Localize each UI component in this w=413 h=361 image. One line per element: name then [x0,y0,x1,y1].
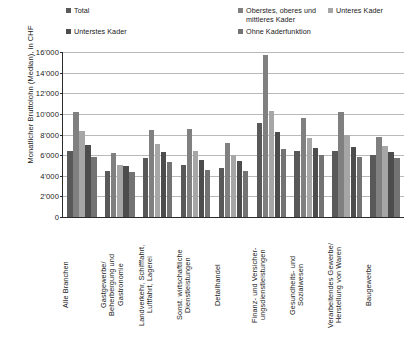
bar [111,153,116,217]
bar [344,135,349,218]
bar [388,152,393,217]
chart-legend: Total Oberstes, oberes und mittleres Kad… [66,6,410,46]
bar [237,161,242,217]
y-axis-tick-mark [60,217,63,218]
bar [199,160,204,217]
bar [231,155,236,217]
bar [91,157,96,217]
bar-group [218,52,248,217]
y-axis-tick-label: 12'000 [36,89,59,98]
bar [382,146,387,217]
bar [332,151,337,217]
bar-group [143,52,173,217]
bar-group [332,52,362,217]
y-axis-tick-label: 16'000 [36,48,59,57]
bar [294,151,299,217]
bar-group [67,52,97,217]
y-axis-tick-label: 2'000 [40,192,59,201]
legend-swatch-unterstes-kader [66,29,71,34]
legend-swatch-unteres-kader [328,8,333,13]
bar [281,149,286,217]
bar [181,165,186,217]
bar [370,155,375,217]
y-axis-tick-label: 6'000 [40,151,59,160]
bar [263,55,268,217]
bar [167,162,172,217]
y-axis-tick-label: 4'000 [40,171,59,180]
bar-group [370,52,400,217]
plot-area: 02'0004'0006'0008'00010'00012'00014'0001… [62,52,404,218]
x-axis-category-label: Gesundheits- und Sozialwesen [289,220,327,350]
bar [79,131,84,217]
bar [105,171,110,217]
legend-label-unterstes-kader: Unterstes Kader [74,27,127,36]
bar-chart: Total Oberstes, oberes und mittleres Kad… [0,0,413,361]
y-axis-title: Monatlicher Bruttolohn (Median), in CHF [26,5,35,185]
bar [67,151,72,217]
x-axis-category-label: Verarbeitendes Gewerbe/ Herstellung von … [327,220,365,350]
bar [205,170,210,217]
bar [187,129,192,217]
bar [319,155,324,217]
bar [313,148,318,217]
legend-label-unteres-kader: Unteres Kader [336,6,383,15]
bar-group [256,52,286,217]
legend-item-unteres-kader: Unteres Kader [328,6,393,15]
bar [243,171,248,217]
bar-group [105,52,135,217]
bar [257,123,262,217]
bar [357,157,362,217]
bar [73,112,78,217]
bar [117,165,122,217]
y-axis-tick-label: 10'000 [36,109,59,118]
x-axis-category-label: Gastgewerbe/ Beherbergung und Gastronomi… [100,220,138,350]
bar [193,151,198,217]
y-axis-tick-label: 8'000 [40,130,59,139]
bar [155,144,160,217]
bar [143,158,148,217]
bar-group [294,52,324,217]
x-axis-category-label: Alle Branchen [62,220,100,350]
x-axis-labels: Alle BranchenGastgewerbe/ Beherbergung u… [62,220,403,352]
bar [376,137,381,217]
bar [149,130,154,217]
bar [225,143,230,217]
bar [129,172,134,217]
x-axis-category-label: Finanz- und Versicher- ungsdienstleistun… [251,220,289,350]
bar [269,111,274,217]
legend-label-oberstes-kader: Oberstes, oberes und mittleres Kader [246,6,316,24]
bar [338,112,343,217]
bar-group [180,52,210,217]
legend-item-oberstes-kader: Oberstes, oberes und mittleres Kader [238,6,330,24]
bars-layer [63,52,404,217]
legend-swatch-total [66,8,71,13]
bar [394,158,399,217]
legend-label-total: Total [74,6,89,15]
legend-item-unterstes-kader: Unterstes Kader [66,27,137,36]
bar [307,138,312,217]
x-axis-category-label: Baugewerbe [365,220,403,350]
x-axis-category-label: Detailhandel [214,220,252,350]
legend-swatch-ohne-kaderfunktion [238,29,243,34]
bar [351,147,356,217]
y-axis-tick-label: 0 [55,213,59,222]
legend-item-ohne-kaderfunktion: Ohne Kaderfunktion [238,27,321,36]
x-axis-category-label: Landverkehr, Schifffahrt, Luftfahrt, Lag… [138,220,176,350]
x-axis-category-label: Sonst. wirtschaftliche Dienstleistungen [176,220,214,350]
bar [161,152,166,217]
legend-swatch-oberstes-kader [238,8,243,13]
legend-item-total: Total [66,6,99,15]
legend-label-ohne-kaderfunktion: Ohne Kaderfunktion [246,27,311,36]
bar [219,168,224,218]
bar [275,132,280,217]
bar [123,166,128,217]
y-axis-tick-label: 14'000 [36,68,59,77]
bar [85,145,90,217]
bar [301,118,306,217]
